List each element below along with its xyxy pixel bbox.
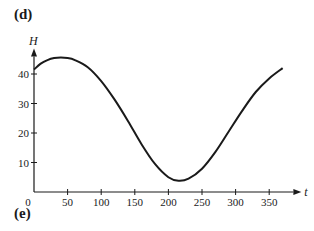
x-tick-label: 350 <box>261 196 278 208</box>
origin-label: 0 <box>25 196 31 208</box>
line-chart: t H 0 50100150200250300350 10203040 <box>0 0 314 231</box>
x-tick-label: 50 <box>62 196 74 208</box>
x-tick-label: 200 <box>160 196 177 208</box>
y-axis-arrow-icon <box>31 49 37 57</box>
x-tick-label: 300 <box>227 196 244 208</box>
y-tick-label: 20 <box>18 127 30 139</box>
x-tick-label: 250 <box>194 196 211 208</box>
series-line-H <box>34 57 283 180</box>
x-tick-label: 100 <box>93 196 110 208</box>
y-tick-label: 40 <box>18 68 30 80</box>
y-tick-label: 30 <box>18 98 30 110</box>
x-axis-arrow-icon <box>293 189 301 195</box>
y-tick-label: 10 <box>18 157 30 169</box>
y-axis-label: H <box>28 34 39 48</box>
x-axis-label: t <box>304 185 308 199</box>
x-tick-label: 150 <box>127 196 144 208</box>
